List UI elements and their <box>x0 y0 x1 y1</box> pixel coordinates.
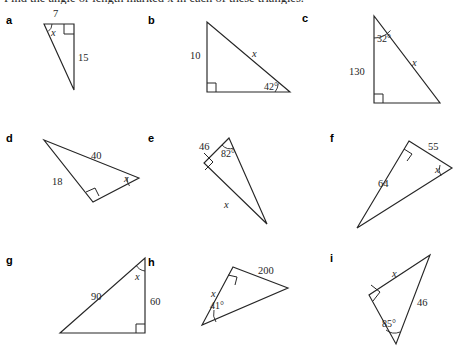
item-letter-g: g <box>6 254 13 266</box>
angle-arc-h <box>214 310 216 322</box>
item-letter-e: e <box>148 132 154 144</box>
right-angle-marker-a <box>64 24 74 34</box>
label-a-unknown-angle: x <box>51 27 56 38</box>
triangle-c <box>0 0 459 356</box>
right-angle-marker-e <box>204 153 213 170</box>
label-c-unknown-length: x <box>412 57 417 68</box>
item-letter-d: d <box>6 132 13 144</box>
worksheet-page: Find the angle or length marked x in eac… <box>0 0 459 356</box>
triangle-outline-f <box>357 141 452 228</box>
label-i-length: 46 <box>417 297 428 308</box>
triangle-outline-a <box>44 24 74 90</box>
label-a-length: 15 <box>78 52 89 63</box>
label-b-angle: 42° <box>264 81 278 92</box>
right-angle-marker-c <box>374 94 383 103</box>
item-letter-b: b <box>148 14 155 26</box>
label-b-unknown-length: x <box>252 48 257 59</box>
right-angle-marker-b <box>207 83 216 92</box>
item-letter-a: a <box>6 14 12 26</box>
label-i-angle: 85° <box>382 318 396 329</box>
label-g-length: 90 <box>91 291 102 302</box>
label-d-unknown-angle: x <box>124 173 129 184</box>
label-e-angle: 82° <box>221 148 235 159</box>
worksheet-heading: Find the angle or length marked x in eac… <box>4 0 424 4</box>
triangle-a <box>0 0 459 356</box>
triangle-outline-c <box>374 16 440 103</box>
item-letter-i: i <box>330 252 333 264</box>
triangle-i <box>0 0 459 356</box>
label-h-unknown-length: x <box>211 288 216 299</box>
right-angle-marker-i <box>371 285 380 301</box>
triangle-d <box>0 0 459 356</box>
item-letter-h: h <box>148 256 155 268</box>
item-letter-f: f <box>330 132 334 144</box>
triangle-h <box>0 0 459 356</box>
label-d-length: 18 <box>52 176 63 187</box>
right-angle-marker-f <box>404 149 412 161</box>
triangle-outline-e <box>204 138 267 224</box>
label-e-length: 46 <box>199 141 210 152</box>
label-e-unknown-length: x <box>224 199 229 210</box>
label-a-length: 7 <box>53 8 58 19</box>
right-angle-marker-g <box>136 324 145 333</box>
triangle-outline-g <box>60 258 145 333</box>
label-c-length: 130 <box>349 66 365 77</box>
label-b-length: 10 <box>190 50 201 61</box>
triangle-f <box>0 0 459 356</box>
triangle-g <box>0 0 459 356</box>
label-h-length: 200 <box>258 265 274 276</box>
right-angle-marker-d <box>86 188 99 196</box>
label-f-length: 55 <box>428 141 439 152</box>
triangle-e <box>0 0 459 356</box>
right-angle-marker-h <box>228 275 237 285</box>
angle-arc-i <box>386 330 400 333</box>
label-d-length: 40 <box>91 150 102 161</box>
triangle-b <box>0 0 459 356</box>
label-f-unknown-angle: x <box>435 164 440 175</box>
label-g-unknown-angle: x <box>135 271 140 282</box>
label-h-angle: 41° <box>210 300 224 311</box>
label-g-length: 60 <box>150 296 161 307</box>
item-letter-c: c <box>302 12 308 24</box>
label-c-angle: 32° <box>377 33 391 44</box>
label-f-length: 64 <box>378 178 389 189</box>
label-i-unknown-length: x <box>392 268 397 279</box>
